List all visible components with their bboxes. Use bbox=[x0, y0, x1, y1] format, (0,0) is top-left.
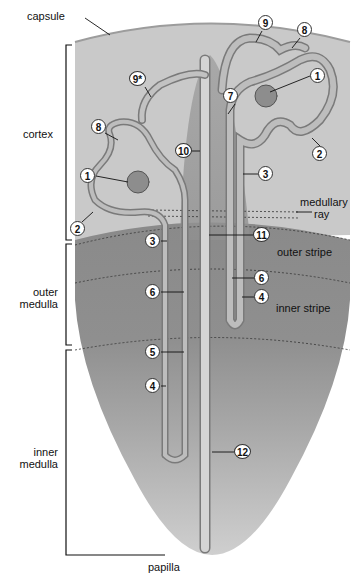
marker-5: 5 bbox=[145, 344, 160, 359]
outer-medulla-label-line1: outer bbox=[18, 286, 58, 298]
marker-3: 3 bbox=[258, 166, 273, 181]
medullary-ray-label-line2: ray bbox=[314, 208, 329, 220]
marker-9-star: 9* bbox=[129, 71, 146, 86]
marker-12: 12 bbox=[234, 444, 251, 459]
outer-stripe-label: outer stripe bbox=[277, 246, 332, 258]
inner-stripe-label: inner stripe bbox=[276, 302, 330, 314]
marker-8: 8 bbox=[297, 22, 312, 37]
marker-3-left: 3 bbox=[145, 233, 160, 248]
marker-2-left: 2 bbox=[70, 221, 85, 236]
capsule-label: capsule bbox=[27, 10, 65, 22]
inner-medulla-label-line1: inner bbox=[18, 446, 58, 458]
marker-4-left: 4 bbox=[145, 378, 160, 393]
marker-8-left: 8 bbox=[91, 119, 106, 134]
inner-medulla-label-line2: medulla bbox=[10, 458, 58, 470]
marker-6: 6 bbox=[254, 270, 269, 285]
medulla-region bbox=[75, 223, 350, 556]
marker-1-glomerulus-left: 1 bbox=[80, 168, 95, 183]
marker-11: 11 bbox=[253, 227, 270, 242]
marker-2: 2 bbox=[312, 146, 327, 161]
marker-10: 10 bbox=[175, 143, 192, 158]
kidney-diagram: capsule cortex medullary ray outer medul… bbox=[0, 0, 357, 573]
medullary-ray-label-line1: medullary bbox=[300, 196, 348, 208]
outer-medulla-label-line2: medulla bbox=[10, 298, 58, 310]
marker-1-glomerulus: 1 bbox=[310, 68, 325, 83]
cortex-label: cortex bbox=[23, 128, 53, 140]
marker-9: 9 bbox=[258, 15, 273, 30]
marker-6-left: 6 bbox=[145, 284, 160, 299]
papilla-label: papilla bbox=[148, 561, 180, 573]
marker-4: 4 bbox=[254, 289, 269, 304]
marker-7: 7 bbox=[223, 88, 238, 103]
